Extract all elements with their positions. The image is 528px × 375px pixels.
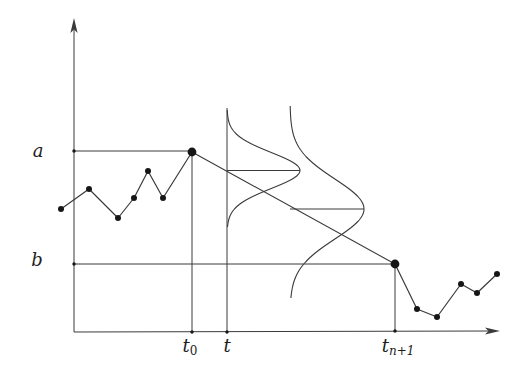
sample-point — [86, 186, 92, 192]
x-axis — [74, 331, 488, 332]
axis-tick-dot — [72, 262, 75, 265]
label-t: t — [223, 335, 231, 356]
sample-point — [474, 290, 480, 296]
label-a: a — [33, 140, 44, 161]
diagram-geometry — [58, 18, 500, 335]
sample-point — [414, 306, 420, 312]
sample-path-left — [61, 152, 192, 218]
diagram-svg: a b t0 t tn+1 — [0, 0, 528, 375]
density-narrow-curve — [227, 110, 300, 227]
anchor-point — [391, 260, 400, 269]
figure-canvas: a b t0 t tn+1 — [0, 0, 528, 375]
density-wide-curve — [290, 106, 364, 298]
sample-point — [131, 195, 137, 201]
label-tn1: tn+1 — [382, 335, 415, 358]
axis-tick-dot — [225, 330, 228, 333]
sample-path-right — [395, 264, 497, 317]
axis-tick-dot — [393, 329, 396, 332]
sample-point — [145, 168, 151, 174]
axis-tick-dot — [190, 330, 193, 333]
sample-point — [434, 314, 440, 320]
sample-point — [458, 281, 464, 287]
bridge-line — [192, 152, 395, 264]
sample-point — [115, 215, 121, 221]
label-tn1-subscript: n+1 — [389, 344, 414, 358]
sample-point — [58, 206, 64, 212]
anchor-point — [188, 148, 197, 157]
label-t0: t0 — [183, 335, 198, 358]
axis-tick-dot — [72, 149, 75, 152]
sample-point — [494, 271, 500, 277]
label-t0-subscript: 0 — [190, 344, 198, 358]
label-b: b — [31, 249, 43, 270]
sample-point — [160, 195, 166, 201]
